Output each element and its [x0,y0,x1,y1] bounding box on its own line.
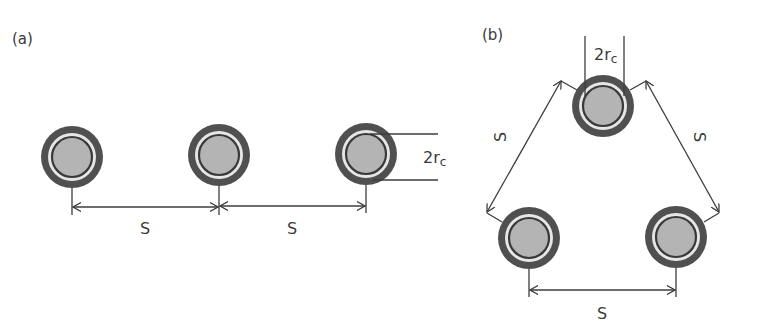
spacing-label: S [491,132,510,142]
spacing-label: S [690,132,709,142]
panel-b-label: (b) [482,26,503,44]
extension-line [630,81,646,90]
cable-b-left [498,207,560,269]
diameter-label: 2rc [423,148,446,169]
spacing-label: S [597,304,607,323]
cable-arrangement-diagram: (a) S S 2rc [0,0,765,335]
spacing-dimension-right [646,81,719,212]
spacing-label: S [287,219,297,238]
extension-line [704,213,719,222]
extension-line [487,213,502,222]
spacing-label: S [140,219,150,238]
panel-b: (b) 2rc S S S [482,26,719,323]
cable-a2 [188,124,250,186]
extension-line [561,81,577,90]
diameter-label: 2rc [594,45,617,66]
panel-a-label: (a) [12,30,33,48]
cable-a3 [335,123,397,185]
panel-a: (a) S S 2rc [12,30,446,238]
spacing-dimension-left [487,81,561,212]
cable-b-right [645,206,707,268]
cable-a1 [41,126,103,188]
cable-b-top [572,75,634,137]
